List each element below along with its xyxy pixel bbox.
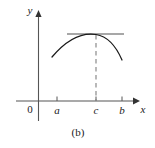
x-axis-label: x xyxy=(140,103,146,115)
tick-label-c: c xyxy=(94,104,99,116)
tick-label-b: b xyxy=(119,104,125,116)
origin-label: 0 xyxy=(27,103,33,115)
y-axis-arrowhead xyxy=(35,10,41,17)
function-curve xyxy=(52,34,122,60)
y-axis-label: y xyxy=(27,4,33,16)
tick-label-a: a xyxy=(54,104,60,116)
x-axis-arrowhead xyxy=(133,98,140,105)
x-axis-tick-marks xyxy=(57,97,122,102)
figure-container: y x 0 a c b (b) xyxy=(0,0,155,148)
figure-caption: (b) xyxy=(72,126,85,139)
calculus-figure-graph: y x 0 a c b (b) xyxy=(0,0,155,148)
